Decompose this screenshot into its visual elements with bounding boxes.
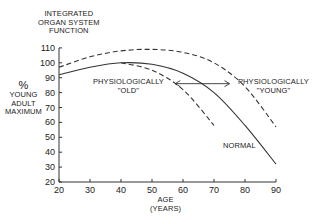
x-tick-label: 50 <box>147 185 157 195</box>
x-tick-label: 30 <box>85 185 95 195</box>
x-tick-label: 80 <box>240 185 250 195</box>
x-tick-label: 60 <box>178 185 188 195</box>
y-tick-label: 70 <box>45 103 55 113</box>
chart-root: 20304050607080902030405060708090100110 I… <box>0 0 319 224</box>
annotation-line: "YOUNG" <box>238 87 309 96</box>
y-tick-label: 50 <box>45 132 55 142</box>
annotation-young: PHYSIOLOGICALLY "YOUNG" <box>238 78 309 95</box>
chart-title: INTEGRATED ORGAN SYSTEM FUNCTION <box>38 10 100 36</box>
title-line: FUNCTION <box>38 27 100 36</box>
x-tick-label: 40 <box>116 185 126 195</box>
annotation-line: "OLD" <box>93 87 164 96</box>
annotation-normal: NORMAL <box>223 142 256 151</box>
x-tick-label: 70 <box>209 185 219 195</box>
annotation-old: PHYSIOLOGICALLY "OLD" <box>93 78 164 95</box>
x-label-line: (YEARS) <box>150 205 181 214</box>
y-tick-label: 30 <box>45 162 55 172</box>
y-label-line: MAXIMUM <box>5 108 42 117</box>
y-tick-label: 60 <box>45 117 55 127</box>
x-tick-label: 20 <box>54 185 64 195</box>
y-tick-label: 100 <box>40 58 55 68</box>
y-tick-label: 20 <box>45 177 55 187</box>
y-tick-label: 40 <box>45 147 55 157</box>
x-axis-label: AGE (YEARS) <box>150 196 181 213</box>
y-tick-label: 80 <box>45 88 55 98</box>
y-tick-label: 90 <box>45 73 55 83</box>
y-axis-label: % YOUNG ADULT MAXIMUM <box>5 80 42 117</box>
x-tick-label: 90 <box>271 185 281 195</box>
y-tick-label: 110 <box>41 43 55 53</box>
